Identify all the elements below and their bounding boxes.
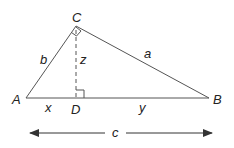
vertex-label-a: A <box>11 92 21 107</box>
side-label-a: a <box>144 46 151 61</box>
triangle-diagram: C A B D b z a x y c <box>0 0 234 148</box>
vertex-label-b: B <box>213 92 222 107</box>
side-b <box>26 26 76 98</box>
side-label-b: b <box>40 52 47 67</box>
vertex-label-c: C <box>72 10 82 25</box>
side-label-c: c <box>112 125 119 140</box>
vertex-label-d: D <box>71 102 80 117</box>
side-label-x: x <box>44 100 52 115</box>
side-label-z: z <box>79 52 87 67</box>
side-label-y: y <box>138 100 147 115</box>
right-angle-marker-d <box>76 90 84 98</box>
side-a <box>76 26 209 98</box>
